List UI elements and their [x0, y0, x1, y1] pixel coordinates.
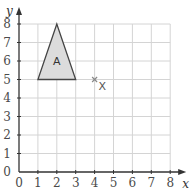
y-tick-label: 3: [3, 110, 11, 124]
y-tick-label: 5: [3, 73, 11, 87]
y-tick-label: 1: [3, 147, 11, 161]
y-axis-arrow-icon: [16, 7, 22, 15]
y-tick-label: 4: [3, 91, 11, 105]
x-tick-label: 4: [91, 176, 99, 190]
y-tick-label: 7: [3, 36, 11, 50]
shapes: A: [38, 24, 76, 80]
y-tick-label: 6: [3, 54, 11, 68]
x-tick-label: 7: [147, 176, 155, 190]
x-tick-label: 3: [72, 176, 80, 190]
x-tick-label: 8: [166, 176, 174, 190]
x-tick-label: 1: [34, 176, 42, 190]
x-tick-label: 0: [15, 176, 23, 190]
x-tick-label: 2: [53, 176, 61, 190]
y-axis-label: y: [5, 4, 13, 18]
triangle-a: [38, 24, 76, 80]
y-tick-label: 2: [3, 128, 11, 142]
coordinate-grid-chart: 012345678012345678 A X x y: [0, 0, 192, 190]
y-tick-label: 0: [3, 165, 11, 179]
shape-label: A: [53, 55, 61, 68]
grid-lines: [19, 24, 170, 172]
x-axis-label: x: [182, 177, 189, 190]
x-tick-label: 6: [129, 176, 137, 190]
y-tick-label: 8: [3, 17, 11, 31]
x-axis-arrow-icon: [178, 169, 186, 175]
point-label: X: [99, 80, 107, 93]
x-tick-label: 5: [110, 176, 118, 190]
